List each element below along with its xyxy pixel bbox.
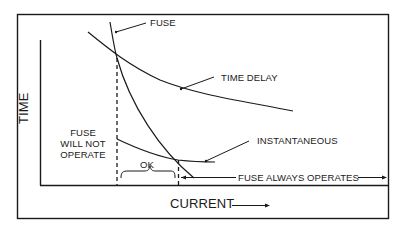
no-operate-label: FUSE WILL NOT OPERATE [56, 127, 110, 160]
y-axis-label: TIME [18, 93, 29, 124]
x-axis-label: CURRENT [170, 198, 234, 209]
fuse-leader [116, 23, 146, 32]
time-delay-leader [181, 77, 214, 89]
fuse-characteristic-diagram: FUSE TIME DELAY INSTANTANEOUS FUSE WILL … [0, 0, 405, 233]
time-delay-label: TIME DELAY [221, 72, 278, 83]
instantaneous-leader [206, 141, 249, 161]
fuse-label: FUSE [150, 17, 176, 28]
always-operates-label: FUSE ALWAYS OPERATES [238, 172, 359, 183]
ok-label: OK [140, 159, 154, 170]
fuse-curve [110, 22, 194, 178]
outer-frame [18, 15, 389, 219]
instantaneous-label: INSTANTANEOUS [257, 135, 338, 146]
